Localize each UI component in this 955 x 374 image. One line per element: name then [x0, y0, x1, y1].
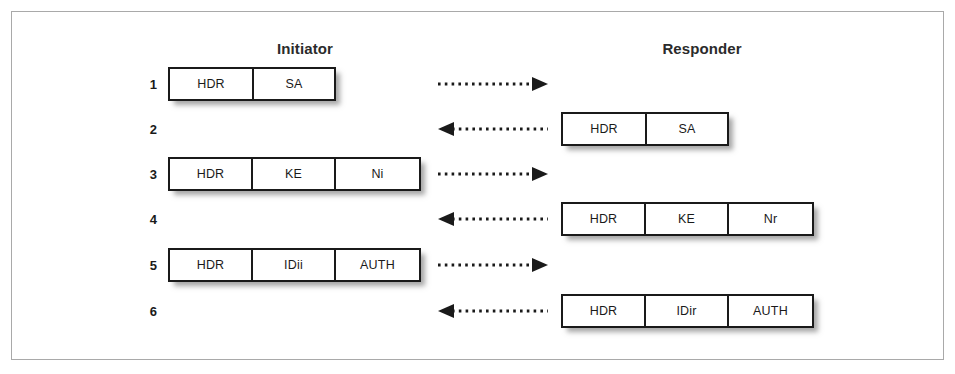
- packet-field: HDR: [170, 159, 253, 189]
- packet-field: AUTH: [729, 296, 812, 326]
- row-number: 6: [141, 304, 157, 319]
- row-number: 4: [141, 212, 157, 227]
- packet-responder: HDRKENr: [561, 202, 814, 236]
- row-number: 2: [141, 122, 157, 137]
- column-heading-responder: Responder: [662, 40, 741, 57]
- packet-initiator: HDRSA: [168, 67, 336, 101]
- message-arrow-right: [438, 77, 548, 91]
- packet-field: HDR: [563, 204, 646, 234]
- packet-field: IDir: [646, 296, 729, 326]
- row-number: 1: [141, 77, 157, 92]
- packet-initiator: HDRIDiiAUTH: [168, 248, 421, 282]
- message-arrow-left: [438, 304, 548, 318]
- packet-field: SA: [647, 114, 727, 144]
- packet-field: HDR: [170, 69, 254, 99]
- packet-field: Ni: [336, 159, 419, 189]
- diagram-frame: Initiator Responder 1HDRSA2HDRSA3HDRKENi…: [11, 11, 944, 360]
- row-number: 3: [141, 167, 157, 182]
- packet-field: Nr: [729, 204, 812, 234]
- packet-field: HDR: [170, 250, 253, 280]
- packet-responder: HDRIDirAUTH: [561, 294, 814, 328]
- message-arrow-right: [438, 167, 548, 181]
- column-heading-initiator: Initiator: [277, 40, 333, 57]
- packet-field: SA: [254, 69, 334, 99]
- packet-field: HDR: [563, 114, 647, 144]
- packet-field: HDR: [563, 296, 646, 326]
- message-arrow-left: [438, 122, 548, 136]
- protocol-exchange-diagram: Initiator Responder 1HDRSA2HDRSA3HDRKENi…: [0, 0, 955, 374]
- packet-initiator: HDRKENi: [168, 157, 421, 191]
- row-number: 5: [141, 258, 157, 273]
- packet-field: KE: [646, 204, 729, 234]
- message-arrow-right: [438, 258, 548, 272]
- packet-field: AUTH: [336, 250, 419, 280]
- packet-responder: HDRSA: [561, 112, 729, 146]
- packet-field: IDii: [253, 250, 336, 280]
- message-arrow-left: [438, 212, 548, 226]
- packet-field: KE: [253, 159, 336, 189]
